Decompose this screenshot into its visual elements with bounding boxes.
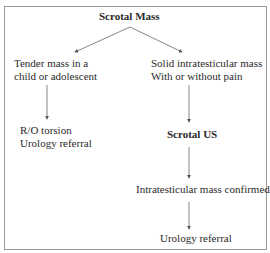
left-action-line2: Urology referral: [20, 137, 92, 150]
left-condition-line2: child or adolescent: [14, 70, 97, 83]
right-condition-line2: With or without pain: [151, 70, 243, 83]
arrow-root-to-right: [130, 27, 182, 52]
right-test: Scrotal US: [167, 128, 217, 141]
left-condition-line1: Tender mass in a: [14, 57, 88, 70]
arrow-root-to-left: [75, 27, 130, 52]
right-action: Urology referral: [160, 232, 232, 245]
right-condition-line1: Solid intratesticular mass: [151, 57, 262, 70]
right-finding: Intratesticular mass confirmed: [136, 183, 270, 196]
left-action-line1: R/O torsion: [20, 124, 72, 137]
root-node: Scrotal Mass: [99, 10, 160, 23]
